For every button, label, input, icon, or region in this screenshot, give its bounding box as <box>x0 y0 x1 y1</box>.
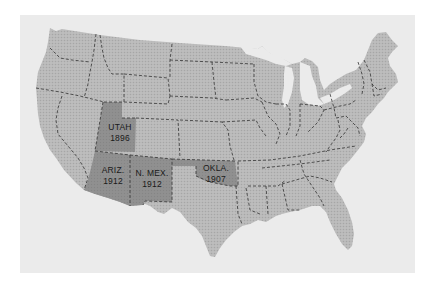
statehood-year: 1907 <box>198 174 234 185</box>
statehood-year: 1912 <box>96 176 130 187</box>
statehood-year: 1896 <box>104 133 136 144</box>
statehood-year: 1912 <box>133 179 171 190</box>
state-label-utah: UTAH 1896 <box>104 122 136 144</box>
state-name: UTAH <box>104 122 136 133</box>
us-map <box>0 0 428 288</box>
state-label-arizona: ARIZ. 1912 <box>96 165 130 187</box>
state-name: N. MEX. <box>133 168 171 179</box>
state-name: ARIZ. <box>96 165 130 176</box>
state-name: OKLA. <box>198 163 234 174</box>
state-label-oklahoma: OKLA. 1907 <box>198 163 234 185</box>
state-label-new-mexico: N. MEX. 1912 <box>133 168 171 190</box>
